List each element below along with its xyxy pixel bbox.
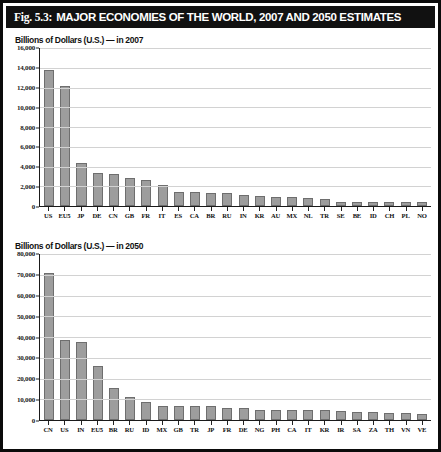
x-axis-tick-label: TR <box>320 212 329 219</box>
x-axis-tick-mark <box>211 207 212 211</box>
x-axis-label-slot: SA <box>349 421 365 447</box>
x-axis-label-slot: FR <box>219 421 235 447</box>
x-axis-tick-label: IT <box>159 212 166 219</box>
x-axis-tick-mark <box>194 421 195 425</box>
x-axis-label-slot: CH <box>381 207 397 233</box>
x-axis-tick-mark <box>422 421 423 425</box>
page-title: MAJOR ECONOMIES OF THE WORLD, 2007 AND 2… <box>56 11 401 23</box>
x-axis-tick-mark <box>48 421 49 425</box>
y-axis-tick-label: 50,000 <box>17 313 35 321</box>
x-axis-label-slot: BE <box>349 207 365 233</box>
gridline <box>40 127 431 128</box>
y-axis-tick-label: 16,000 <box>17 44 35 52</box>
x-axis-tick-mark <box>227 421 228 425</box>
bar <box>109 174 119 206</box>
x-axis-tick-label: BR <box>206 212 215 219</box>
y-axis-tick-label: 60,000 <box>17 292 35 300</box>
bar <box>271 197 281 206</box>
x-axis-tick-label: NL <box>304 212 313 219</box>
x-axis-tick-label: FR <box>141 212 149 219</box>
bar <box>125 178 135 206</box>
x-axis-label-slot: US <box>56 421 72 447</box>
gridline <box>40 358 431 359</box>
x-axis-tick-mark <box>389 421 390 425</box>
x-axis-label-slot: IT <box>300 421 316 447</box>
x-axis-tick-label: DE <box>92 212 101 219</box>
x-axis-label-slot: FR <box>138 207 154 233</box>
x-axis-tick-label: CA <box>190 212 199 219</box>
x-axis-tick-label: BE <box>353 212 361 219</box>
x-axis-label-slot: BR <box>203 207 219 233</box>
figure-title-bar: Fig. 5.3: MAJOR ECONOMIES OF THE WORLD, … <box>6 6 435 28</box>
y-axis-tick-label: 6,000 <box>20 143 35 151</box>
gridline <box>40 147 431 148</box>
x-axis-label-slot: ID <box>365 207 381 233</box>
x-axis-label-slot: KR <box>251 207 267 233</box>
x-axis-label-slot: IR <box>333 421 349 447</box>
x-axis-tick-mark <box>389 207 390 211</box>
bar <box>239 408 249 420</box>
x-axis-tick-label: US <box>44 212 52 219</box>
x-axis-label-slot: GB <box>121 207 137 233</box>
gridline <box>40 88 431 89</box>
bar <box>417 202 427 206</box>
gridline <box>40 167 431 168</box>
x-axis-label-slot: RU <box>121 421 137 447</box>
x-axis-tick-mark <box>113 207 114 211</box>
x-axis-tick-label: NG <box>255 426 265 433</box>
x-axis-tick-mark <box>178 207 179 211</box>
x-axis-tick-mark <box>308 421 309 425</box>
x-axis-tick-label: GB <box>174 426 183 433</box>
x-axis-tick-mark <box>406 207 407 211</box>
bar <box>368 412 378 420</box>
gridline <box>40 379 431 380</box>
x-axis-tick-mark <box>292 207 293 211</box>
x-axis-tick-label: JP <box>77 212 84 219</box>
x-axis-label-slot: NG <box>251 421 267 447</box>
x-axis-label-slot: JP <box>73 207 89 233</box>
x-axis-tick-label: US <box>60 426 68 433</box>
gridline <box>40 186 431 187</box>
x-axis-label-slot: TR <box>186 421 202 447</box>
x-axis-tick-mark <box>357 207 358 211</box>
gridline <box>40 48 431 49</box>
y-axis-tick-label: 10,000 <box>17 104 35 112</box>
chart-panel-2007: Billions of Dollars (U.S.) — in 2007 02,… <box>6 31 435 235</box>
x-axis-tick-mark <box>324 421 325 425</box>
x-axis-tick-label: MX <box>157 426 168 433</box>
x-axis-tick-mark <box>373 207 374 211</box>
bar <box>206 193 216 206</box>
x-axis-label-slot: PH <box>268 421 284 447</box>
bar <box>368 202 378 206</box>
y-axis-tick-label: 0 <box>32 417 35 425</box>
x-axis-tick-mark <box>194 207 195 211</box>
bar <box>401 202 411 206</box>
bar <box>60 340 70 420</box>
x-axis-tick-mark <box>292 421 293 425</box>
x-axis-tick-label: BR <box>109 426 118 433</box>
bar <box>109 388 119 420</box>
y-axis-tick-label: 20,000 <box>17 375 35 383</box>
x-axis-label-slot: IT <box>154 207 170 233</box>
x-axis-tick-label: GB <box>125 212 134 219</box>
x-axis-tick-label: VN <box>401 426 410 433</box>
x-axis-tick-label: JP <box>207 426 214 433</box>
x-axis-tick-label: AU <box>271 212 280 219</box>
x-axis-tick-mark <box>243 421 244 425</box>
x-axis-label-slot: ZA <box>365 421 381 447</box>
bar <box>174 406 184 420</box>
bar <box>255 410 265 420</box>
y-axis-labels-2007: 02,0004,0006,0008,00010,00012,00014,0001… <box>6 48 39 207</box>
chart-panel-2050: Billions of Dollars (U.S.) — in 2050 010… <box>6 237 435 449</box>
figure-container: Fig. 5.3: MAJOR ECONOMIES OF THE WORLD, … <box>0 0 441 452</box>
y-axis-tick-label: 12,000 <box>17 84 35 92</box>
x-axis-label-slot: VN <box>398 421 414 447</box>
x-axis-tick-mark <box>162 207 163 211</box>
x-axis-tick-mark <box>357 421 358 425</box>
x-axis-tick-label: SE <box>337 212 345 219</box>
bar <box>222 408 232 420</box>
x-axis-tick-label: CA <box>287 426 296 433</box>
gridline <box>40 254 431 255</box>
x-axis-tick-label: DE <box>239 426 248 433</box>
x-axis-tick-mark <box>373 421 374 425</box>
